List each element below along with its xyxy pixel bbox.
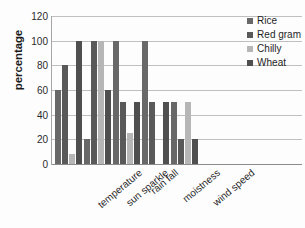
bar <box>171 102 177 164</box>
y-axis-tick-label: 0 <box>24 159 48 170</box>
legend: RiceRed gramChillyWheat <box>247 14 301 69</box>
legend-label: Rice <box>257 15 277 26</box>
bar-chart: percentage 120100806040200 temperaturesu… <box>0 0 305 228</box>
bar <box>91 41 97 164</box>
legend-swatch-icon <box>247 18 253 24</box>
legend-item[interactable]: Chilly <box>247 42 301 55</box>
x-axis-line <box>52 164 302 165</box>
legend-swatch-icon <box>247 46 253 52</box>
bar-group <box>113 16 142 164</box>
legend-swatch-icon <box>247 60 253 66</box>
y-axis-tick-label: 60 <box>24 85 48 96</box>
bar <box>76 41 82 164</box>
x-axis-tick-labels: temperaturesun sparklerain fallmoistness… <box>51 167 302 227</box>
y-axis-tick-label: 100 <box>24 35 48 46</box>
legend-label: Red gram <box>257 29 301 40</box>
bar <box>113 41 119 164</box>
legend-item[interactable]: Rice <box>247 14 301 27</box>
bar <box>178 139 184 164</box>
bar <box>69 154 75 164</box>
y-axis-tick-label: 20 <box>24 134 48 145</box>
bar-group <box>142 16 171 164</box>
bar-group <box>171 16 200 164</box>
bar <box>120 102 126 164</box>
bar-group <box>55 16 84 164</box>
bar <box>55 90 61 164</box>
legend-swatch-icon <box>247 32 253 38</box>
y-axis-tick-label: 120 <box>24 11 48 22</box>
bar <box>185 102 191 164</box>
bar <box>192 139 198 164</box>
y-axis-tick-labels: 120100806040200 <box>24 16 48 165</box>
legend-label: Wheat <box>257 57 286 68</box>
bar <box>163 102 169 164</box>
bar <box>149 102 155 164</box>
y-axis-tick-label: 40 <box>24 109 48 120</box>
bar <box>105 90 111 164</box>
bar <box>62 65 68 164</box>
bar <box>98 41 104 164</box>
y-axis-tick-label: 80 <box>24 60 48 71</box>
legend-item[interactable]: Red gram <box>247 28 301 41</box>
legend-item[interactable]: Wheat <box>247 56 301 69</box>
bar <box>127 133 133 164</box>
bar-group <box>84 16 113 164</box>
legend-label: Chilly <box>257 43 281 54</box>
bar <box>142 41 148 164</box>
bar <box>134 102 140 164</box>
bar <box>84 139 90 164</box>
